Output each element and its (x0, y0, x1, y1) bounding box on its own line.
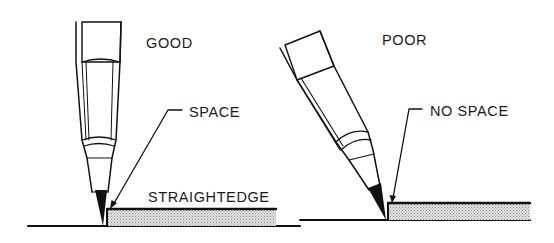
poor-panel: POOR NO SPACE (280, 31, 530, 220)
good-panel: GOOD SPACE STRAIGHTEDGE (28, 22, 300, 226)
space-label: SPACE (189, 104, 240, 120)
pencil-vertical-icon (76, 22, 121, 226)
no-space-label: NO SPACE (430, 103, 509, 119)
straightedge-right (388, 203, 530, 220)
pencil-tilted-icon (280, 31, 386, 220)
good-label: GOOD (146, 35, 193, 51)
straightedge-left (107, 209, 276, 226)
pencil-technique-diagram: GOOD SPACE STRAIGHTEDGE (0, 0, 554, 243)
no-space-callout: NO SPACE (390, 103, 509, 203)
straightedge-label: STRAIGHTEDGE (148, 189, 270, 205)
poor-label: POOR (382, 32, 427, 48)
